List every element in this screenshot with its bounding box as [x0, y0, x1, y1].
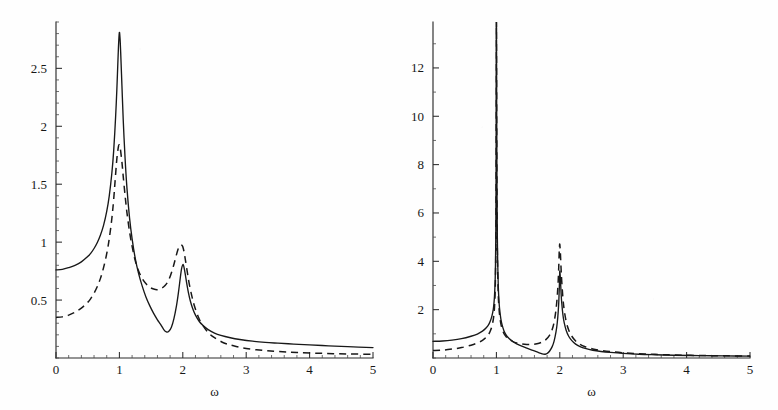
curves-group [56, 32, 373, 354]
right-plot-svg: 01234524681012ω [389, 0, 778, 410]
y-tick-label: 1.5 [31, 177, 47, 192]
x-axis-title: ω [210, 384, 219, 399]
curve-dashed [56, 145, 373, 355]
curves-group [433, 21, 750, 356]
x-tick-label: 0 [430, 362, 437, 377]
y-tick-label: 6 [418, 205, 425, 220]
x-tick-label: 4 [306, 362, 313, 377]
y-tick-label: 2 [418, 302, 425, 317]
y-tick-label: 2.5 [31, 61, 47, 76]
y-tick-label: 8 [418, 157, 425, 172]
chart-panel-right: 01234524681012ω [389, 0, 778, 410]
left-plot-svg: 0123450.511.522.5ω [0, 0, 389, 410]
x-tick-label: 4 [683, 362, 690, 377]
x-tick-label: 1 [116, 362, 123, 377]
x-tick-label: 3 [620, 362, 627, 377]
x-tick-label: 2 [180, 362, 187, 377]
figure-root: 0123450.511.522.5ω 01234524681012ω [0, 0, 778, 410]
x-tick-label: 5 [370, 362, 377, 377]
y-tick-label: 0.5 [31, 293, 47, 308]
y-tick-label: 1 [41, 235, 48, 250]
x-tick-label: 1 [493, 362, 500, 377]
y-tick-label: 4 [418, 254, 425, 269]
x-tick-label: 3 [243, 362, 250, 377]
curve-solid [433, 21, 750, 356]
curve-dashed [433, 21, 750, 356]
y-tick-label: 10 [411, 109, 424, 124]
y-tick-label: 12 [411, 60, 424, 75]
chart-panel-left: 0123450.511.522.5ω [0, 0, 389, 410]
x-tick-label: 5 [747, 362, 754, 377]
y-tick-label: 2 [41, 119, 48, 134]
x-axis-title: ω [587, 384, 596, 399]
curve-solid [56, 32, 373, 347]
x-tick-label: 0 [53, 362, 60, 377]
x-tick-label: 2 [557, 362, 564, 377]
